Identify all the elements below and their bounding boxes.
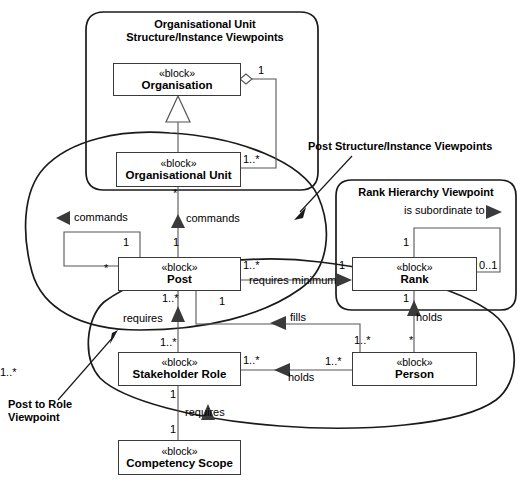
commands-arrowhead-mid — [171, 214, 185, 228]
block-person[interactable]: «block» Person — [352, 352, 477, 386]
mult-org-one: 1 — [258, 64, 264, 76]
viewpoint-title-org-unit: Organisational Unit Structure/Instance V… — [90, 18, 320, 44]
edge-label-fills: fills — [290, 311, 306, 324]
viewpoint-title-post-structure: Post Structure/Instance Viewpoints — [308, 140, 528, 153]
diagram-canvas: Organisational Unit (1..*) : right-hand … — [0, 0, 528, 490]
commands-arrowhead-left — [56, 211, 70, 225]
viewpoint-title-post-to-role: Post to Role Viewpoint — [8, 398, 118, 424]
edge-label-holds-rank: holds — [416, 311, 442, 324]
edge-label-is-subordinate-to: is subordinate to — [404, 204, 485, 217]
edge-label-holds-role: holds — [288, 371, 314, 384]
aggregation-diamond — [240, 74, 252, 84]
viewpoint-title-post-to-role-line2: Viewpoint — [8, 411, 118, 424]
mult-person-top-star: * — [409, 334, 413, 346]
edge-label-commands-mid: commands — [186, 212, 240, 225]
block-person-name: Person — [395, 368, 434, 382]
block-organisation-stereotype: «block» — [159, 67, 195, 79]
block-competency-scope-stereotype: «block» — [161, 445, 197, 457]
mult-competency-top-one: 1 — [170, 423, 176, 435]
requires-minimum-arrowhead — [336, 273, 352, 287]
viewpoint-title-post-structure-text: Post Structure/Instance Viewpoints — [308, 140, 492, 152]
mult-role-right-many: 1..* — [243, 354, 260, 366]
block-rank-name: Rank — [400, 273, 428, 287]
block-post[interactable]: «block» Post — [118, 257, 241, 291]
edge-label-commands-left: commands — [74, 211, 128, 224]
block-stakeholder-role-name: Stakeholder Role — [133, 368, 227, 382]
viewpoint-title-org-unit-line2: Structure/Instance Viewpoints — [90, 31, 320, 44]
block-post-name: Post — [167, 273, 192, 287]
block-organisational-unit-stereotype: «block» — [160, 157, 196, 169]
mult-post-fills-one: 1 — [219, 295, 225, 307]
block-competency-scope[interactable]: «block» Competency Scope — [118, 440, 241, 475]
generalization-triangle — [166, 96, 190, 122]
mult-role-top-many: 1..* — [160, 336, 177, 348]
mult-post-right-many: 1..* — [243, 259, 260, 271]
block-person-stereotype: «block» — [396, 356, 432, 368]
block-competency-scope-name: Competency Scope — [126, 457, 233, 471]
mult-person-far-many: 1..* — [0, 366, 17, 378]
mult-ou-many: 1..* — [243, 153, 260, 165]
block-organisational-unit[interactable]: «block» Organisational Unit — [116, 152, 241, 187]
mult-post-bottom-many: 1..* — [162, 292, 179, 304]
block-organisational-unit-name: Organisational Unit — [125, 169, 231, 183]
mult-post-top-one-a: 1 — [123, 236, 129, 248]
mult-rank-right-zeroone: 0..1 — [479, 259, 497, 271]
viewpoint-title-rank-hierarchy-line1: Rank Hierarchy Viewpoint — [338, 186, 514, 199]
is-subordinate-arrowhead — [486, 205, 502, 219]
mult-rank-left-one: 1 — [339, 259, 345, 271]
viewpoint-title-org-unit-line1: Organisational Unit — [90, 18, 320, 31]
block-post-stereotype: «block» — [161, 261, 197, 273]
mult-rank-bottom-one: 1 — [403, 292, 409, 304]
callout-line-post-structure — [300, 156, 352, 212]
edge-label-requires-minimum: requires minimum — [249, 274, 336, 287]
block-stakeholder-role[interactable]: «block» Stakeholder Role — [118, 352, 241, 386]
mult-ou-star: * — [173, 187, 177, 199]
viewpoint-title-rank-hierarchy: Rank Hierarchy Viewpoint — [338, 186, 514, 199]
block-organisation[interactable]: «block» Organisation — [113, 63, 241, 96]
mult-rank-top-one: 1 — [403, 236, 409, 248]
fills-arrowhead — [270, 316, 286, 330]
mult-person-topleft-many: 1..* — [354, 334, 371, 346]
mult-post-left-star: * — [104, 262, 108, 274]
block-organisation-name: Organisation — [142, 79, 213, 93]
requires-role-arrowhead — [171, 306, 185, 322]
block-rank-stereotype: «block» — [396, 261, 432, 273]
callout-arrowhead-ptr — [110, 330, 118, 344]
edge-label-requires-competency: requires — [185, 406, 225, 419]
mult-post-top-one-b: 1 — [173, 236, 179, 248]
block-stakeholder-role-stereotype: «block» — [161, 356, 197, 368]
callout-line-post-to-role — [58, 336, 114, 400]
viewpoint-title-post-to-role-line1: Post to Role — [8, 398, 118, 411]
edge-label-requires-role: requires — [123, 312, 163, 325]
block-rank[interactable]: «block» Rank — [352, 257, 477, 291]
callout-arrowhead-ps — [294, 207, 306, 220]
mult-role-bottom-one: 1 — [170, 388, 176, 400]
mult-person-left-many: 1..* — [325, 355, 342, 367]
